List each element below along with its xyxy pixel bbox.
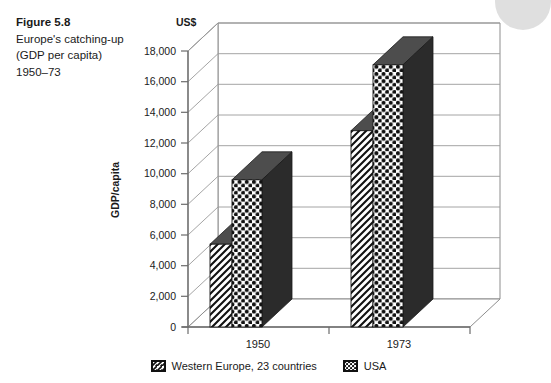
x-tick-label-1973: 1973: [387, 338, 411, 350]
y-tick-label: 0: [170, 321, 176, 333]
bar-side-face: [403, 37, 433, 327]
bar-side-face: [262, 152, 292, 327]
legend-label: Western Europe, 23 countries: [172, 361, 317, 372]
y-axis-unit-label: US$: [176, 16, 197, 28]
y-tick-label: 16,000: [144, 75, 176, 87]
x-tick-label-1950: 1950: [246, 338, 270, 350]
y-tick-label: 12,000: [144, 137, 176, 149]
bar-usa-1950[interactable]: [232, 152, 292, 327]
y-axis-tick-labels: 0 2,000 4,000 6,000 8,000 10,000 12,000 …: [144, 45, 176, 333]
bar-front-face: [210, 244, 232, 327]
chart-legend: Western Europe, 23 countries USA: [0, 360, 537, 372]
y-tick-label: 14,000: [144, 106, 176, 118]
bar-usa-1973[interactable]: [373, 37, 433, 327]
y-tick-label: 2,000: [150, 290, 176, 302]
bar-front-face: [373, 65, 403, 327]
dots-swatch-icon: [343, 360, 358, 372]
legend-item-western-europe[interactable]: Western Europe, 23 countries: [151, 360, 317, 372]
legend-label: USA: [364, 361, 387, 372]
y-tick-label: 10,000: [144, 167, 176, 179]
hatch-swatch-icon: [151, 360, 166, 372]
bar-front-face: [232, 180, 262, 327]
y-tick-marks: [181, 51, 188, 327]
legend-item-usa[interactable]: USA: [343, 360, 387, 372]
y-tick-label: 8,000: [150, 198, 176, 210]
x-tick-marks: [188, 327, 470, 334]
y-tick-label: 18,000: [144, 45, 176, 57]
bar-front-face: [351, 131, 373, 327]
y-axis-title: GDP/capita: [109, 162, 121, 218]
y-tick-label: 4,000: [150, 259, 176, 271]
y-tick-label: 6,000: [150, 229, 176, 241]
